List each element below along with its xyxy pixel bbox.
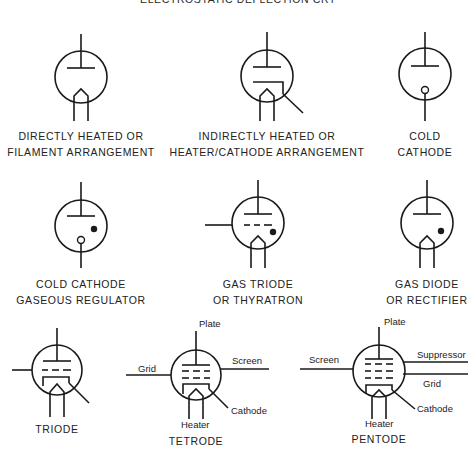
pentode-screen-label: Screen <box>309 354 339 365</box>
caption-pentode: PENTODE <box>352 431 407 447</box>
caption-tetrode: TETRODE <box>169 433 223 449</box>
caption-triode: TRIODE <box>35 421 78 437</box>
pentode-heater-label: Heater <box>365 418 394 429</box>
pentode-suppressor-label: Suppressor <box>417 349 466 360</box>
gas-triode-symbol <box>205 180 284 268</box>
gas-diode-symbol <box>401 180 453 268</box>
cold-cathode-symbol <box>399 32 451 121</box>
tetrode-screen-label: Screen <box>232 355 262 366</box>
tetrode-plate-label: Plate <box>199 318 221 329</box>
caption-directly-heated: DIRECTLY HEATED OR FILAMENT ARRANGEMENT <box>7 128 155 160</box>
pentode-cathode-label: Cathode <box>417 403 453 414</box>
caption-cold-cathode-gaseous-regulator: COLD CATHODE GASEOUS REGULATOR <box>16 276 145 308</box>
tube-symbols-diagram <box>0 0 476 459</box>
triode-symbol <box>12 328 89 417</box>
tetrode-cathode-label: Cathode <box>231 405 267 416</box>
tetrode-grid-label: Grid <box>138 363 156 374</box>
caption-cold-cathode: COLD CATHODE <box>398 128 453 160</box>
cold-cathode-gaseous-regulator-symbol <box>55 182 107 268</box>
tetrode-heater-label: Heater <box>181 419 210 430</box>
pentode-plate-label: Plate <box>384 316 406 327</box>
pentode-grid-label: Grid <box>423 378 441 389</box>
caption-gas-triode: GAS TRIODE OR THYRATRON <box>213 276 303 308</box>
directly-heated-symbol <box>55 34 107 121</box>
caption-gas-diode: GAS DIODE OR RECTIFIER <box>386 276 467 308</box>
indirectly-heated-symbol <box>241 32 303 121</box>
caption-indirectly-heated: INDIRECTLY HEATED OR HEATER/CATHODE ARRA… <box>170 128 365 160</box>
